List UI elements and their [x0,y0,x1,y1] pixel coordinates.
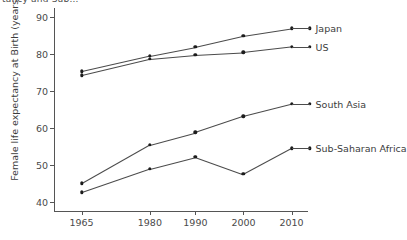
data-point [80,73,83,76]
line-segment [243,28,291,36]
y-axis-tick [50,54,54,55]
data-point [242,34,245,37]
line-segment [243,148,292,175]
line-segment [81,169,150,194]
line-segment [81,145,150,185]
y-axis-tick [50,128,54,129]
y-axis-tick [50,17,54,18]
data-point [194,45,197,48]
line-segment [195,52,243,56]
data-point [242,114,245,117]
series-label-south-asia: South Asia [316,98,367,109]
y-axis-tick-label: 70 [36,86,48,97]
line-segment [195,157,243,175]
x-axis-tick-label: 2010 [279,217,303,228]
x-axis-tick [195,211,196,215]
plot-area: 40506070809019651980199020002010JapanUSS… [55,8,308,211]
line-segment [243,104,291,117]
data-point [194,131,197,134]
line-segment [243,47,291,54]
x-axis-tick-label: 1990 [183,217,207,228]
x-axis-tick [150,211,151,215]
line-segment [195,116,243,133]
x-axis-tick [292,211,293,215]
data-point [148,57,151,60]
series-label-sub-saharan-africa: Sub-Saharan Africa [316,143,407,154]
data-point [194,53,197,56]
y-axis-tick-label: 50 [36,159,48,170]
data-point [80,69,83,72]
data-point [80,182,83,185]
y-axis-tick-label: 40 [36,196,48,207]
x-axis-tick [82,211,83,215]
y-axis-tick-label: 80 [36,49,48,60]
y-axis-title: Female life expectancy at Birth (years) [9,0,20,184]
series-label-us: US [316,41,329,52]
y-axis-tick [50,202,54,203]
line-segment [150,157,196,170]
line-segment [150,132,196,145]
series-label-japan: Japan [316,23,343,34]
x-axis-tick-label: 1965 [69,217,93,228]
series-label-leader-line [292,148,310,149]
data-point [80,190,83,193]
y-axis-tick [50,91,54,92]
line-segment [81,59,150,76]
series-label-leader-line [292,104,310,105]
x-axis-line [54,211,308,212]
line-segment [195,36,243,48]
series-label-leader-line [292,28,310,29]
x-axis-tick-label: 2000 [231,217,255,228]
data-point [242,172,245,175]
y-axis-tick-label: 60 [36,122,48,133]
x-axis-tick [243,211,244,215]
data-point [242,51,245,54]
x-axis-tick-label: 1980 [138,217,162,228]
series-label-leader-line [292,47,310,48]
line-segment [81,56,150,72]
y-axis-line [54,8,55,211]
y-axis-tick [50,165,54,166]
y-axis-tick-label: 90 [36,12,48,23]
